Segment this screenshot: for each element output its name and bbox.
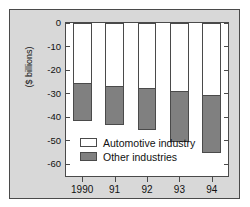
legend-item-other: Other industries xyxy=(80,150,195,163)
y-tick-mark-right xyxy=(224,46,228,47)
x-axis-ticks xyxy=(65,177,229,183)
y-tick-mark-right xyxy=(224,117,228,118)
x-tick-mark xyxy=(115,177,116,182)
legend-item-automotive: Automotive industry xyxy=(80,136,195,149)
y-tick-mark xyxy=(66,117,70,118)
x-tick-mark xyxy=(147,177,148,182)
x-tick-mark xyxy=(82,177,83,182)
y-tick-mark-right xyxy=(224,70,228,71)
y-tick-mark xyxy=(66,164,70,165)
bar-segment-other-industries xyxy=(138,88,157,130)
bar-segment-other-industries xyxy=(170,91,189,142)
bar-segment-other-industries xyxy=(202,95,221,154)
chart-legend: Automotive industry Other industries xyxy=(80,136,195,164)
y-axis-label: ($ billions) xyxy=(24,24,34,110)
x-tick-label: 93 xyxy=(174,184,185,195)
y-tick-label: -50 xyxy=(47,135,61,146)
x-tick-mark xyxy=(212,177,213,182)
y-tick-label: -10 xyxy=(47,41,61,52)
legend-swatch-other xyxy=(80,152,97,161)
y-tick-label: 0 xyxy=(56,17,61,28)
bar-stack xyxy=(202,23,221,152)
y-tick-mark xyxy=(66,140,70,141)
bar-stack xyxy=(73,23,92,120)
y-tick-mark-right xyxy=(224,164,228,165)
y-tick-mark xyxy=(66,46,70,47)
x-tick-label: 1990 xyxy=(71,184,93,195)
bar-stack xyxy=(138,23,157,129)
y-tick-label: -40 xyxy=(47,111,61,122)
chart-figure: ($ billions) 0-10-20-30-40-50-60 Automot… xyxy=(0,0,250,207)
plot-area: 0-10-20-30-40-50-60 Automotive industry … xyxy=(65,22,229,177)
chart-panel: ($ billions) 0-10-20-30-40-50-60 Automot… xyxy=(9,9,240,199)
x-tick-mark xyxy=(179,177,180,182)
y-tick-mark-right xyxy=(224,140,228,141)
y-tick-mark xyxy=(66,93,70,94)
y-tick-mark xyxy=(66,70,70,71)
x-tick-label: 94 xyxy=(206,184,217,195)
y-tick-label: -20 xyxy=(47,64,61,75)
x-axis-labels: 199091929394 xyxy=(65,184,229,198)
x-tick-label: 91 xyxy=(109,184,120,195)
bar-stack xyxy=(170,23,189,141)
y-tick-mark-right xyxy=(224,93,228,94)
y-tick-mark xyxy=(66,23,70,24)
y-tick-label: -60 xyxy=(47,158,61,169)
legend-label-other: Other industries xyxy=(103,151,177,163)
bar-segment-other-industries xyxy=(105,86,124,125)
legend-label-automotive: Automotive industry xyxy=(103,137,195,149)
y-tick-label: -30 xyxy=(47,88,61,99)
y-tick-mark-right xyxy=(224,23,228,24)
bar-segment-other-industries xyxy=(73,83,92,121)
bar-stack xyxy=(105,23,124,124)
x-tick-label: 92 xyxy=(141,184,152,195)
legend-swatch-automotive xyxy=(80,138,97,147)
